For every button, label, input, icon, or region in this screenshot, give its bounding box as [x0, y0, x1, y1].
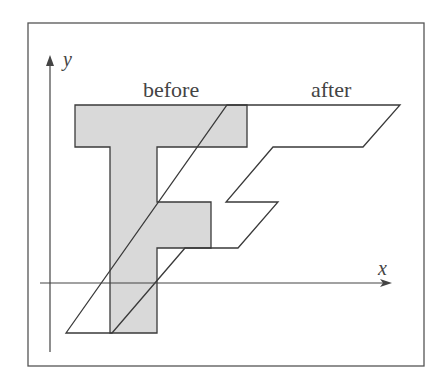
- y-axis: [46, 55, 54, 352]
- y-arrow-icon: [46, 55, 54, 66]
- before-shape: [75, 105, 247, 333]
- before-label: before: [143, 77, 199, 102]
- shear-diagram: y x before after: [0, 0, 443, 379]
- y-axis-label: y: [61, 48, 72, 71]
- after-label: after: [311, 77, 352, 102]
- x-axis: [40, 279, 392, 287]
- figure-frame: [28, 23, 424, 366]
- before-F: [75, 105, 247, 333]
- x-axis-label: x: [377, 257, 387, 279]
